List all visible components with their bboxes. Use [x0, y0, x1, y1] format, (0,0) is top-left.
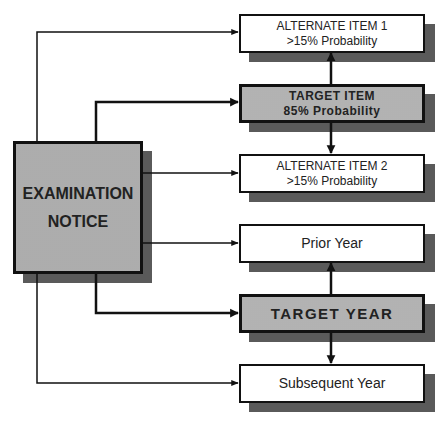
- subsequent-year-label: Subsequent Year: [279, 376, 386, 391]
- target-item-box: TARGET ITEM 85% Probability: [239, 84, 425, 123]
- subsequent-year-box: Subsequent Year: [239, 364, 425, 403]
- target-item-title: TARGET ITEM: [289, 89, 375, 104]
- target-item-probability: 85% Probability: [284, 104, 381, 119]
- arrow-to-alternate-1: [37, 32, 238, 141]
- prior-year-box: Prior Year: [239, 224, 425, 263]
- prior-year-label: Prior Year: [301, 236, 362, 251]
- exam-line-1: EXAMINATION: [23, 180, 134, 208]
- arrow-to-target-year: [96, 274, 238, 313]
- arrow-to-target-item: [96, 102, 238, 141]
- alternate-item-1-box: ALTERNATE ITEM 1 >15% Probability: [239, 14, 425, 53]
- examination-notice-box: EXAMINATION NOTICE: [13, 141, 143, 274]
- alternate-item-2-probability: >15% Probability: [287, 174, 377, 189]
- alternate-item-2-box: ALTERNATE ITEM 2 >15% Probability: [239, 154, 425, 193]
- alternate-item-1-probability: >15% Probability: [287, 34, 377, 49]
- arrow-to-subsequent-year: [37, 274, 238, 383]
- alternate-item-2-title: ALTERNATE ITEM 2: [277, 159, 388, 174]
- alternate-item-1-title: ALTERNATE ITEM 1: [277, 19, 388, 34]
- target-year-box: TARGET YEAR: [239, 294, 425, 333]
- exam-line-2: NOTICE: [48, 208, 108, 236]
- target-year-label: TARGET YEAR: [271, 306, 394, 321]
